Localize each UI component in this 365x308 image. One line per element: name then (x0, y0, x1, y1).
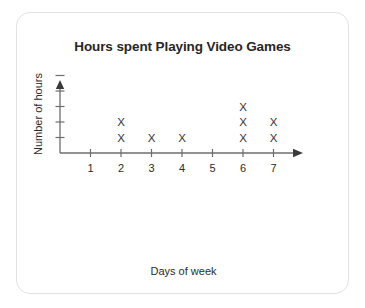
data-marker: X (239, 132, 247, 144)
data-marker: X (270, 116, 278, 128)
data-marker: X (117, 132, 125, 144)
x-tick-label: 1 (87, 162, 93, 174)
x-tick-label: 7 (270, 162, 276, 174)
data-marker: X (270, 132, 278, 144)
x-axis-title: Days of week (17, 265, 350, 277)
data-marker: X (239, 101, 247, 113)
data-marker: X (117, 116, 125, 128)
data-marker: X (178, 132, 186, 144)
x-tick-label: 2 (118, 162, 124, 174)
x-tick-label: 3 (148, 162, 154, 174)
y-axis-arrowhead (56, 80, 64, 89)
data-marker: X (148, 132, 156, 144)
y-axis-title: Number of hours (32, 49, 44, 179)
x-axis-arrowhead (293, 149, 303, 157)
chart-svg: 1234567 XXXXXXXXX (17, 13, 350, 295)
x-tick-label: 6 (240, 162, 246, 174)
data-marker: X (239, 116, 247, 128)
x-tick-label: 4 (179, 162, 185, 174)
chart-card: Hours spent Playing Video Games 1234567 … (16, 12, 349, 294)
plot-area: 1234567 XXXXXXXXX (17, 13, 350, 295)
axes-group (56, 80, 303, 157)
x-tick-label-group: 1234567 (87, 162, 276, 174)
data-marker-group: XXXXXXXXX (117, 101, 278, 144)
x-tick-label: 5 (209, 162, 215, 174)
